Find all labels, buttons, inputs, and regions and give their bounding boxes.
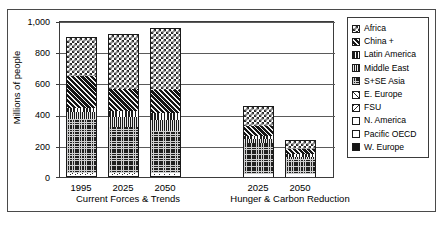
segment-e-europe [150, 173, 181, 174]
legend-item-pacific-oecd[interactable]: Pacific OECD [352, 128, 425, 141]
gridline-600 [60, 84, 335, 85]
legend-item-africa[interactable]: Africa [352, 22, 425, 35]
y-tick-mark [56, 147, 60, 148]
y-tick-label: 600 [0, 80, 50, 89]
y-tick-label: 1,000 [0, 18, 50, 27]
y-tick-mark [56, 53, 60, 54]
segment-s-se-asia [285, 159, 316, 174]
legend-swatch-latin-america-icon [352, 51, 360, 59]
segment-china-plus [150, 90, 181, 113]
legend-label: FSU [364, 103, 381, 112]
plot-area [59, 21, 334, 178]
legend-item-fsu[interactable]: FSU [352, 101, 425, 114]
y-tick-label: 800 [0, 49, 50, 58]
segment-n-america [243, 175, 274, 176]
y-axis-labels: 1,000 800 600 400 200 0 [0, 0, 56, 230]
segment-pacific-oecd [66, 175, 97, 176]
gridline-400 [60, 116, 335, 117]
gridline-1000 [60, 22, 335, 23]
segment-e-europe [243, 174, 274, 175]
segment-latin-america [66, 108, 97, 112]
legend-swatch-w-europe-icon [352, 143, 360, 151]
bar-hcr-2025[interactable] [243, 106, 274, 177]
legend-item-latin-america[interactable]: Latin America [352, 48, 425, 61]
group-label-hunger-carbon-reduction: Hunger & Carbon Reduction [220, 194, 360, 204]
legend-label: China + [364, 37, 394, 46]
segment-pacific-oecd [285, 176, 316, 177]
segment-fsu [243, 174, 274, 175]
segment-middle-east [66, 112, 97, 119]
segment-n-america [66, 175, 97, 176]
legend-item-w-europe[interactable]: W. Europe [352, 141, 425, 154]
bar-cft-2050[interactable] [150, 28, 181, 177]
segment-n-america [150, 175, 181, 176]
y-tick-label: 400 [0, 111, 50, 120]
segment-china-plus [66, 76, 97, 109]
segment-china-plus [285, 149, 316, 155]
segment-e-europe [285, 174, 316, 175]
segment-fsu [108, 174, 139, 175]
segment-n-america [108, 175, 139, 176]
bar-cft-2025[interactable] [108, 34, 139, 178]
legend-swatch-e-europe-icon [352, 91, 360, 99]
y-axis-title: Millions of people [11, 28, 22, 148]
segment-fsu [150, 173, 181, 174]
segment-africa [66, 37, 97, 76]
segment-e-europe [108, 173, 139, 174]
group-label-current-forces-trends: Current Forces & Trends [58, 194, 198, 204]
legend-swatch-middle-east-icon [352, 64, 360, 72]
segment-latin-america [285, 154, 316, 156]
legend-label: N. America [364, 116, 406, 125]
legend-label: Africa [364, 24, 386, 33]
segment-africa [108, 34, 139, 89]
segment-e-europe [66, 173, 97, 174]
x-tick-label-cft-2050: 2050 [135, 183, 195, 193]
segment-fsu [285, 174, 316, 175]
y-tick-label: 200 [0, 143, 50, 152]
legend-swatch-africa-icon [352, 25, 360, 33]
segment-pacific-oecd [108, 175, 139, 176]
segment-latin-america [150, 113, 181, 120]
gridline-800 [60, 53, 335, 54]
bar-hcr-2050[interactable] [285, 140, 316, 177]
legend-swatch-pacific-oecd-icon [352, 130, 360, 138]
legend-swatch-n-america-icon [352, 117, 360, 125]
segment-s-se-asia [66, 119, 97, 173]
legend-item-middle-east[interactable]: Middle East [352, 62, 425, 75]
segment-s-se-asia [108, 127, 139, 173]
segment-africa [285, 140, 316, 149]
legend-label: Pacific OECD [364, 130, 417, 139]
segment-china-plus [108, 89, 139, 112]
y-tick-mark [56, 84, 60, 85]
segment-china-plus [243, 126, 274, 136]
legend-swatch-s-se-asia-icon [352, 77, 360, 85]
y-tick-mark [56, 22, 60, 23]
y-tick-label: 0 [0, 174, 50, 183]
segment-middle-east [108, 117, 139, 126]
legend-item-n-america[interactable]: N. America [352, 114, 425, 127]
legend-swatch-china-plus-icon [352, 38, 360, 46]
bar-cft-1995[interactable] [66, 37, 97, 177]
segment-s-se-asia [150, 131, 181, 173]
segment-africa [150, 28, 181, 90]
legend-label: W. Europe [364, 143, 404, 152]
segment-pacific-oecd [243, 176, 274, 177]
y-tick-mark [56, 177, 60, 178]
legend-label: S+SE Asia [364, 77, 405, 86]
legend-swatch-fsu-icon [352, 104, 360, 112]
segment-n-america [285, 175, 316, 176]
segment-pacific-oecd [150, 175, 181, 176]
figure-container: 1,000 800 600 400 200 0 Millions of peop… [0, 0, 446, 230]
segment-africa [243, 106, 274, 126]
legend-item-e-europe[interactable]: E. Europe [352, 88, 425, 101]
legend-item-china-plus[interactable]: China + [352, 35, 425, 48]
segment-latin-america [108, 111, 139, 117]
segment-middle-east [243, 139, 274, 143]
legend-label: E. Europe [364, 90, 402, 99]
legend-label: Latin America [364, 50, 416, 59]
legend: Africa China + Latin America Middle East… [347, 17, 429, 158]
segment-middle-east [285, 157, 316, 159]
segment-latin-america [243, 136, 274, 139]
legend-item-s-se-asia[interactable]: S+SE Asia [352, 75, 425, 88]
y-tick-mark [56, 116, 60, 117]
